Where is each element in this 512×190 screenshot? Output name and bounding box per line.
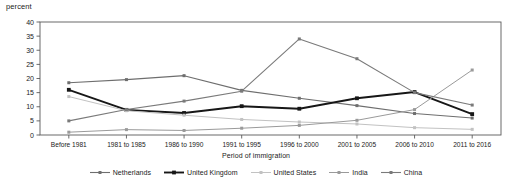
data-point-marker [240,104,244,108]
y-tick-label: 5 [30,117,34,124]
data-point-marker [471,128,474,131]
immigration-line-chart: percent 0510152025303540 Before 19811981… [0,0,512,190]
data-point-marker [125,78,128,81]
legend-label: United States [274,169,317,176]
y-tick-label: 10 [26,103,34,110]
data-point-marker [413,112,416,115]
data-point-marker [470,112,474,116]
y-tick-label: 40 [26,19,34,26]
data-point-marker [240,118,243,121]
legend-swatch-icon [90,168,110,177]
data-point-marker [67,81,70,84]
data-point-marker [471,117,474,120]
x-tick-label: Before 1981 [51,141,87,148]
data-point-marker [355,96,359,100]
y-tick-label: 30 [26,47,34,54]
legend-item-china[interactable]: China [381,168,423,177]
data-point-marker [355,119,358,122]
data-point-marker [183,129,186,132]
data-point-marker [471,69,474,72]
x-tick-label: 2006 to 2010 [395,141,434,148]
data-point-marker [413,91,416,94]
plot-area: 0510152025303540 Before 19811981 to 1985… [0,0,512,150]
y-tick-label: 35 [26,33,34,40]
y-tick-label: 0 [30,132,34,139]
x-axis-ticks: Before 19811981 to 19851986 to 19901991 … [51,135,492,148]
series-netherlands [67,74,473,119]
data-point-marker [298,124,301,127]
series-india [67,69,473,134]
data-point-marker [125,108,128,111]
legend-label: India [352,169,367,176]
data-point-marker [183,100,186,103]
data-point-marker [355,57,358,60]
x-tick-label: 1981 to 1985 [107,141,146,148]
data-point-marker [297,107,301,111]
x-tick-label: 2001 to 2005 [338,141,377,148]
data-point-marker [183,114,186,117]
data-point-marker [355,104,358,107]
data-point-marker [240,127,243,130]
legend-swatch-icon [329,168,349,177]
data-point-marker [240,90,243,93]
data-point-marker [67,131,70,134]
x-tick-label: 2011 to 2016 [453,141,491,148]
legend-label: Netherlands [113,169,151,176]
legend-swatch-icon [381,168,401,177]
x-tick-label: 1991 to 1995 [222,141,261,148]
legend-swatch-icon [164,168,184,177]
data-point-marker [67,88,71,92]
legend-item-united-states[interactable]: United States [251,168,317,177]
legend-swatch-icon [251,168,271,177]
x-tick-label: 1996 to 2000 [280,141,319,148]
data-point-marker [413,108,416,111]
data-point-marker [413,126,416,129]
data-point-marker [183,74,186,77]
legend-item-netherlands[interactable]: Netherlands [90,168,151,177]
legend-label: China [404,169,423,176]
x-tick-label: 1986 to 1990 [165,141,204,148]
data-point-marker [125,128,128,131]
y-axis-ticks: 0510152025303540 [26,19,40,139]
y-tick-label: 20 [26,75,34,82]
legend-item-india[interactable]: India [329,168,367,177]
legend-label: United Kingdom [187,169,238,176]
x-axis-title: Period of immigration [0,152,512,159]
data-point-marker [298,121,301,124]
series-layer [67,37,474,133]
axis-frame [40,22,501,135]
legend-item-united-kingdom[interactable]: United Kingdom [164,168,238,177]
data-point-marker [298,97,301,100]
data-point-marker [471,104,474,107]
data-point-marker [67,95,70,98]
y-tick-label: 15 [26,89,34,96]
y-tick-label: 25 [26,61,34,68]
data-point-marker [355,122,358,125]
data-point-marker [298,37,301,40]
chart-legend: NetherlandsUnited KingdomUnited StatesIn… [0,168,512,177]
data-point-marker [67,119,70,122]
